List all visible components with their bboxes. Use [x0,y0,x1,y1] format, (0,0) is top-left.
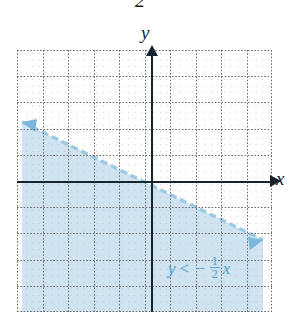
inequality-term: x [223,259,231,279]
inequality-operator: < [180,259,190,279]
inequality-annotation: y < − 1 2 x [168,256,230,281]
y-axis-arrow-icon [146,45,158,56]
top-glyph-label: 2 [128,0,152,9]
x-axis [17,181,272,183]
inequality-minus-sign: − [195,259,205,279]
inequality-graph-figure: 2 [0,0,298,328]
fraction-numerator: 1 [210,255,220,267]
y-axis [151,53,153,312]
coordinate-plane [17,50,272,312]
inequality-variable: y [168,259,176,279]
fraction-denominator: 2 [210,267,220,280]
y-axis-label: y [141,22,149,44]
inequality-fraction: 1 2 [210,255,220,280]
x-axis-label: x [276,168,284,190]
